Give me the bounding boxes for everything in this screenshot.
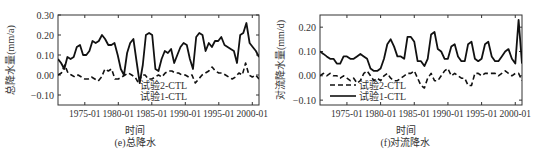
legend-label: 试验1-CTL [359, 90, 406, 102]
y-tick-label: 0.00 [299, 70, 317, 81]
x-tick-label: 2000-01 [236, 109, 268, 119]
y-tick-label: 0.00 [37, 70, 55, 81]
x-tick-label: 2000-01 [499, 109, 531, 119]
y-tick-label: 0.30 [37, 10, 55, 21]
y-axis-label: 对流降水量(mm/d) [274, 20, 287, 100]
y-tick-label: 0.10 [37, 50, 55, 61]
chart-panel-convective-precipitation: −0.100.000.100.201975-011980-011985-0119… [270, 0, 541, 158]
legend-label: 试验2-CTL [359, 79, 406, 91]
x-tick-label: 1985-01 [398, 109, 430, 119]
legend-label: 试验1-CTL [140, 90, 187, 102]
y-tick-label: −0.10 [293, 95, 316, 106]
x-tick-label: 1980-01 [365, 109, 397, 119]
y-tick-label: −0.10 [31, 90, 54, 101]
series-line-exp1-ctl [58, 23, 259, 83]
x-tick-label: 1975-01 [69, 109, 101, 119]
y-tick-label: 0.10 [299, 46, 317, 57]
x-tick-label: 1980-01 [102, 109, 134, 119]
x-tick-label: 1990-01 [169, 109, 201, 119]
x-tick-label: 1990-01 [432, 109, 464, 119]
legend-label: 试验2-CTL [140, 79, 187, 91]
legend: 试验2-CTL试验1-CTL [140, 79, 187, 102]
y-tick-label: 0.20 [299, 22, 317, 33]
chart-caption: (e)总降水 [0, 134, 270, 149]
chart-panel-total-precipitation: −0.100.000.100.200.301975-011980-011985-… [0, 0, 270, 158]
x-tick-label: 1995-01 [466, 109, 498, 119]
series-line-exp1-ctl [320, 20, 522, 71]
y-tick-label: 0.20 [37, 30, 55, 41]
legend: 试验2-CTL试验1-CTL [330, 79, 406, 102]
y-axis-label: 总降水量(mm/a) [4, 25, 17, 94]
x-tick-label: 1985-01 [136, 109, 168, 119]
x-tick-label: 1975-01 [331, 109, 363, 119]
x-tick-label: 1995-01 [203, 109, 235, 119]
chart-caption: (f)对流降水 [270, 134, 541, 149]
plot-frame [320, 15, 522, 105]
